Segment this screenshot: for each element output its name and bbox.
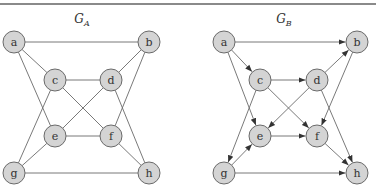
node-label: d (313, 74, 320, 87)
node-a: a (213, 31, 235, 53)
graph-gb-directed: abcdefgh (213, 31, 368, 184)
node-label: b (353, 36, 360, 49)
node-label: a (221, 36, 228, 49)
edge-d-h (321, 90, 352, 162)
node-h: h (138, 162, 160, 184)
node-label: b (145, 36, 152, 49)
node-label: g (10, 167, 17, 180)
node-f: f (100, 125, 122, 147)
node-label: h (145, 167, 152, 180)
edge-a-c (232, 50, 253, 72)
graph-canvas: abcdefgh abcdefgh (0, 0, 376, 191)
edge-f-h (119, 144, 141, 166)
node-h: h (346, 162, 368, 184)
node-b: b (138, 31, 160, 53)
node-g: g (3, 162, 25, 184)
node-label: e (52, 130, 59, 143)
node-d: d (100, 69, 122, 91)
graph-ga-undirected: abcdefgh (3, 31, 160, 184)
node-c: c (44, 69, 66, 91)
node-g: g (213, 162, 235, 184)
edge-f-h (325, 143, 348, 165)
node-a: a (3, 31, 25, 53)
node-label: d (107, 74, 114, 87)
node-label: h (353, 167, 360, 180)
node-label: e (257, 130, 264, 143)
edge-b-f (322, 52, 353, 125)
node-d: d (306, 69, 328, 91)
edge-a-e (18, 52, 50, 126)
node-e: e (44, 125, 66, 147)
edge-b-f (115, 52, 145, 126)
node-f: f (306, 125, 328, 147)
node-label: c (257, 74, 263, 87)
node-b: b (346, 31, 368, 53)
node-c: c (249, 69, 271, 91)
node-label: g (220, 167, 227, 180)
edge-d-h (115, 90, 145, 163)
edge-c-g (18, 90, 50, 163)
edge-c-g (228, 90, 256, 162)
edge-a-e (228, 52, 256, 125)
node-e: e (249, 125, 271, 147)
node-label: a (11, 36, 18, 49)
edge-g-e (232, 144, 252, 165)
node-label: c (52, 74, 58, 87)
